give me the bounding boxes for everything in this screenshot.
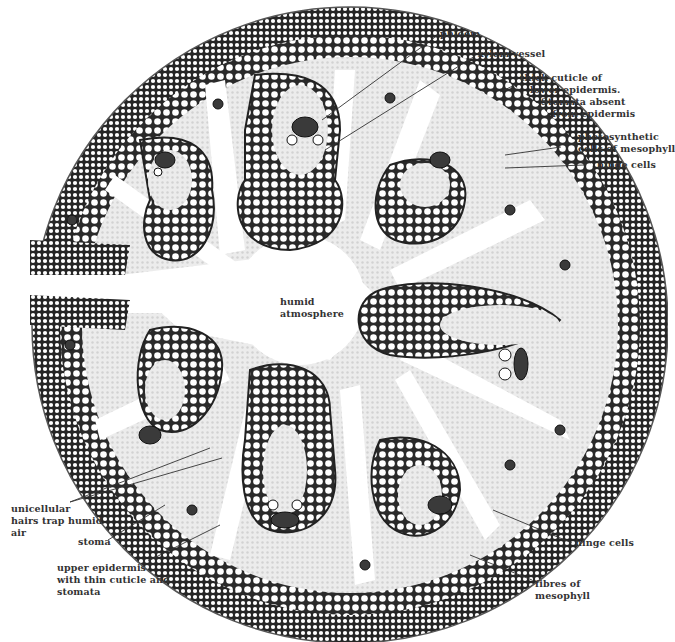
label-hinge-cells-bottom: hinge cells	[575, 537, 634, 549]
label-line: thick cuticle of	[520, 72, 635, 84]
label-line: unicellular	[11, 503, 103, 515]
label-thick-cuticle: thick cuticle of lower epidermis. Stomat…	[520, 72, 635, 120]
label-fibres-of-mesophyll: fibres of mesophyll	[535, 578, 590, 602]
label-hinge-cells-top: hinge cells	[597, 159, 656, 171]
label-line: hairs trap humid	[11, 515, 103, 527]
label-line: stomata	[57, 586, 170, 598]
label-line: mesophyll	[535, 590, 590, 602]
label-line: cells of mesophyll	[578, 143, 675, 155]
label-xylem-vessel: xylem vessel	[478, 48, 545, 60]
label-phloem: phloem	[440, 28, 480, 40]
label-line: with thin cuticle and	[57, 574, 170, 586]
label-line: fibres of	[535, 578, 590, 590]
label-line: lower epidermis.	[520, 84, 635, 96]
label-line: upper epidermis	[57, 562, 170, 574]
label-line: Stomata absent	[520, 96, 635, 108]
label-photosynthetic-cells: photosynthetic cells of mesophyll	[578, 131, 675, 155]
label-line: atmosphere	[280, 308, 344, 320]
label-humid-atmosphere: humid atmosphere	[280, 296, 344, 320]
label-line: photosynthetic	[578, 131, 675, 143]
label-stoma: stoma	[78, 536, 111, 548]
label-unicellular-hairs: unicellular hairs trap humid air	[11, 503, 103, 539]
label-line: humid	[280, 296, 344, 308]
label-line: from epidermis	[520, 108, 635, 120]
label-upper-epidermis: upper epidermis with thin cuticle and st…	[57, 562, 170, 598]
